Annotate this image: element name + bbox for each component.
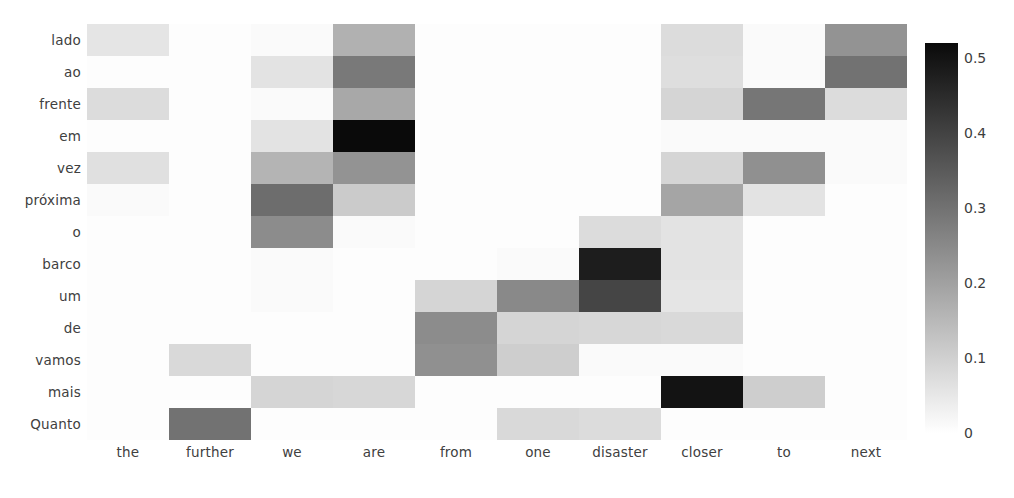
heatmap-cell — [333, 376, 415, 408]
heatmap-cell — [169, 248, 251, 280]
heatmap-cell — [415, 376, 497, 408]
heatmap-cell — [169, 344, 251, 376]
heatmap-cell — [251, 24, 333, 56]
y-axis-tick-5: próxima — [0, 184, 81, 216]
heatmap-cell — [661, 152, 743, 184]
x-axis-tick-0: the — [87, 444, 169, 472]
heatmap-cell — [333, 312, 415, 344]
heatmap-cell — [825, 216, 907, 248]
heatmap-cell — [743, 120, 825, 152]
heatmap-cell — [169, 152, 251, 184]
heatmap-cell — [415, 312, 497, 344]
x-axis-tick-5: one — [497, 444, 579, 472]
heatmap-cell — [743, 312, 825, 344]
x-axis-tick-3: are — [333, 444, 415, 472]
heatmap-cell — [661, 408, 743, 440]
colorbar-tick-0: 0.5 — [964, 50, 986, 66]
heatmap-cell — [661, 376, 743, 408]
heatmap-cell — [661, 184, 743, 216]
heatmap-cell — [333, 184, 415, 216]
heatmap-cell — [579, 312, 661, 344]
heatmap-cell — [251, 120, 333, 152]
heatmap-cell — [87, 88, 169, 120]
heatmap-cell — [497, 120, 579, 152]
colorbar-gradient — [925, 43, 958, 433]
heatmap-cell — [661, 88, 743, 120]
x-axis-tick-labels: thefurtherwearefromonedisasterclosertone… — [87, 444, 907, 472]
heatmap-cell — [415, 56, 497, 88]
heatmap-cell — [497, 216, 579, 248]
heatmap-cell — [579, 56, 661, 88]
y-axis-tick-2: frente — [0, 88, 81, 120]
heatmap-cell — [497, 344, 579, 376]
y-axis-tick-0: lado — [0, 24, 81, 56]
x-axis-tick-9: next — [825, 444, 907, 472]
heatmap-cell — [743, 56, 825, 88]
heatmap-cell — [743, 408, 825, 440]
heatmap-cell — [333, 120, 415, 152]
x-axis-tick-4: from — [415, 444, 497, 472]
heatmap-cell-grid — [87, 24, 907, 440]
x-axis-tick-6: disaster — [579, 444, 661, 472]
heatmap-cell — [87, 280, 169, 312]
heatmap-cell — [169, 312, 251, 344]
heatmap-cell — [497, 24, 579, 56]
heatmap-cell — [415, 24, 497, 56]
heatmap-cell — [579, 248, 661, 280]
heatmap-cell — [661, 280, 743, 312]
heatmap-cell — [415, 344, 497, 376]
heatmap-cell — [87, 408, 169, 440]
heatmap-cell — [251, 376, 333, 408]
heatmap-cell — [497, 248, 579, 280]
heatmap-cell — [661, 248, 743, 280]
heatmap-cell — [497, 280, 579, 312]
heatmap-cell — [497, 312, 579, 344]
x-axis-tick-8: to — [743, 444, 825, 472]
heatmap-cell — [169, 408, 251, 440]
heatmap-cell — [825, 280, 907, 312]
heatmap-cell — [825, 376, 907, 408]
heatmap-cell — [579, 280, 661, 312]
heatmap-cell — [661, 56, 743, 88]
heatmap-cell — [579, 120, 661, 152]
heatmap-cell — [251, 344, 333, 376]
heatmap-cell — [743, 184, 825, 216]
x-axis-tick-2: we — [251, 444, 333, 472]
y-axis-tick-11: mais — [0, 376, 81, 408]
heatmap-cell — [87, 376, 169, 408]
heatmap-cell — [743, 376, 825, 408]
heatmap-cell — [251, 88, 333, 120]
heatmap-cell — [825, 312, 907, 344]
heatmap-cell — [661, 312, 743, 344]
heatmap-cell — [579, 344, 661, 376]
y-axis-tick-12: Quanto — [0, 408, 81, 440]
colorbar-tick-4: 0.1 — [964, 350, 986, 366]
heatmap-cell — [333, 408, 415, 440]
y-axis-tick-8: um — [0, 280, 81, 312]
heatmap-cell — [825, 88, 907, 120]
heatmap-cell — [743, 344, 825, 376]
heatmap-cell — [87, 56, 169, 88]
heatmap-cell — [743, 216, 825, 248]
heatmap-cell — [169, 216, 251, 248]
heatmap-cell — [87, 152, 169, 184]
heatmap-plot-area — [87, 24, 907, 440]
heatmap-cell — [87, 184, 169, 216]
heatmap-cell — [87, 312, 169, 344]
colorbar-tick-5: 0 — [964, 425, 973, 441]
colorbar-tick-1: 0.4 — [964, 125, 986, 141]
heatmap-cell — [825, 248, 907, 280]
heatmap-cell — [415, 120, 497, 152]
heatmap-cell — [743, 152, 825, 184]
heatmap-cell — [497, 408, 579, 440]
heatmap-cell — [415, 248, 497, 280]
heatmap-cell — [743, 88, 825, 120]
heatmap-cell — [333, 24, 415, 56]
heatmap-cell — [579, 152, 661, 184]
y-axis-tick-1: ao — [0, 56, 81, 88]
heatmap-cell — [169, 24, 251, 56]
heatmap-cell — [87, 344, 169, 376]
heatmap-cell — [333, 88, 415, 120]
heatmap-cell — [415, 184, 497, 216]
heatmap-cell — [251, 408, 333, 440]
